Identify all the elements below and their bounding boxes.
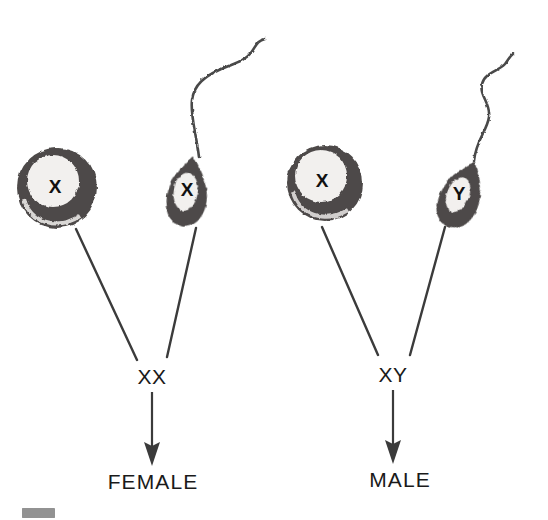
connector-sperm-to-zygote-male [410,227,445,355]
egg-cell-x-male: X [287,145,363,221]
genotype-label-male: XY [378,363,407,386]
sperm-cell-y-male: Y [429,54,513,235]
down-arrow-icon-male [385,390,401,464]
sperm-cell-x-female: X [162,39,265,229]
connector-egg-to-zygote-male [322,227,378,355]
sperm-tail [474,54,513,161]
sperm-chromosome-label: Y [453,183,466,204]
egg-chromosome-label: X [49,176,62,197]
outcome-label-male: MALE [369,468,431,491]
connector-sperm-to-zygote-female [167,228,196,357]
sperm-tail [192,39,265,157]
outcome-label-female: FEMALE [108,470,199,493]
genotype-label-female: XX [137,365,166,388]
sperm-chromosome-label: X [181,179,194,200]
figure-canvas: X X XX FEMALE [0,0,548,520]
egg-cell-x-female: X [17,148,97,228]
down-arrow-icon-female [144,392,160,466]
scan-smudge-artifact [22,508,55,518]
sex-determination-figure: X X XX FEMALE [0,0,548,520]
connector-egg-to-zygote-female [76,229,137,360]
egg-chromosome-label: X [316,170,329,191]
